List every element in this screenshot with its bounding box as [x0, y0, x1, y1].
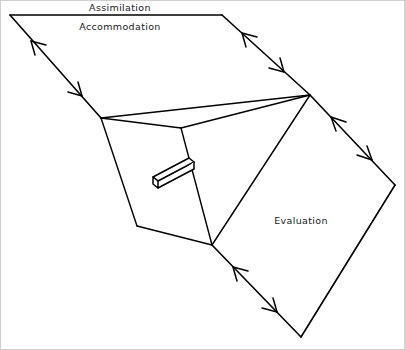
edge-fold-direct — [101, 95, 310, 118]
label-accommodation: Accommodation — [79, 21, 161, 32]
edge-left-face — [101, 118, 137, 226]
edge-eval-upper-right — [310, 95, 395, 185]
edge-inner-fold — [181, 128, 212, 245]
edge-fold-bent — [101, 95, 310, 128]
label-assimilation: Assimilation — [89, 2, 151, 13]
protruding-bar-icon — [153, 158, 194, 188]
diagram-canvas: Assimilation Accommodation Evaluation — [0, 0, 405, 350]
edge-eval-lower-left — [212, 245, 301, 337]
edge-eval-lower-right — [301, 185, 395, 337]
figure-border — [1, 1, 405, 350]
label-evaluation: Evaluation — [274, 215, 328, 226]
diagram-figure: Assimilation Accommodation Evaluation — [0, 0, 405, 350]
edge-left-base — [137, 226, 212, 245]
edge-upper-right — [222, 15, 310, 95]
